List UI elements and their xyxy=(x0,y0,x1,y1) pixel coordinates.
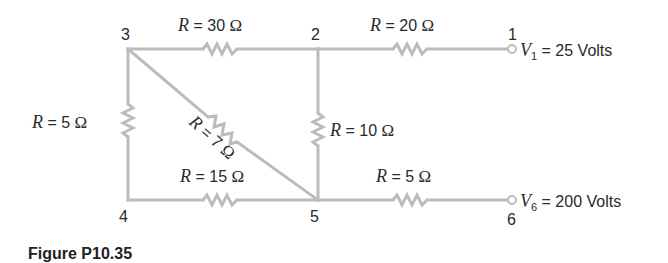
wire-4-5 xyxy=(128,195,318,205)
label-resistor-30-ohm: R = 30 Ω xyxy=(178,16,242,34)
resistor-5-ohm-left xyxy=(123,104,133,137)
label-voltage-v6: V6 = 200 Volts xyxy=(520,192,621,213)
node-label-1: 1 xyxy=(508,27,517,43)
wire-3-2 xyxy=(128,44,318,54)
terminal-node-6 xyxy=(508,196,516,204)
label-voltage-v1: V1 = 25 Volts xyxy=(520,41,612,62)
node-label-3: 3 xyxy=(121,27,130,43)
wire-3-4 xyxy=(123,49,133,200)
label-resistor-5-ohm-right: R = 5 Ω xyxy=(376,167,431,185)
resistor-20-ohm xyxy=(393,44,427,54)
label-resistor-5-ohm-left: R = 5 Ω xyxy=(32,113,87,131)
figure-caption: Figure P10.35 xyxy=(28,245,132,263)
label-resistor-10-ohm: R = 10 Ω xyxy=(330,121,394,139)
wire-2-5 xyxy=(313,49,323,200)
terminal-node-1 xyxy=(508,45,516,53)
node-label-4: 4 xyxy=(119,209,128,225)
node-label-5: 5 xyxy=(310,209,319,225)
node-label-2: 2 xyxy=(311,27,320,43)
resistor-10-ohm xyxy=(313,113,323,146)
label-resistor-15-ohm: R = 15 Ω xyxy=(180,167,244,185)
node-label-6: 6 xyxy=(507,212,516,228)
resistor-15-ohm xyxy=(203,195,237,205)
resistor-5-ohm-right xyxy=(393,195,427,205)
resistor-30-ohm xyxy=(203,44,237,54)
wire-5-6 xyxy=(318,195,516,205)
label-resistor-20-ohm: R = 20 Ω xyxy=(370,16,434,34)
wire-2-1 xyxy=(318,44,516,54)
